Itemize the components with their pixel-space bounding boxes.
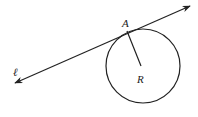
geometry-diagram: ℓ A R xyxy=(0,0,198,117)
tangent-line xyxy=(15,6,190,83)
label-point-a: A xyxy=(121,17,129,29)
label-line-l: ℓ xyxy=(13,66,18,78)
label-point-r: R xyxy=(136,73,144,85)
radius-segment xyxy=(127,31,141,66)
circle xyxy=(106,29,180,103)
